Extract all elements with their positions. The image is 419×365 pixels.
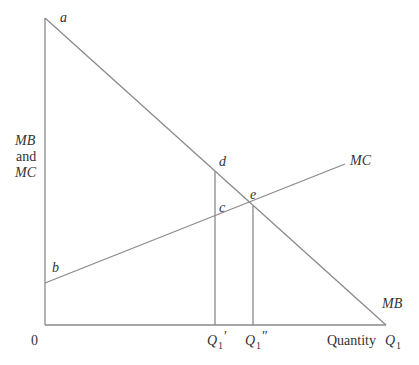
x-axis-label: Quantity Q 1 <box>327 333 401 351</box>
origin-label: 0 <box>31 333 38 348</box>
mb-curve-label: MB <box>381 296 403 311</box>
svg-text:Q: Q <box>207 333 217 348</box>
y-axis-label-and: and <box>16 149 36 164</box>
q1-prime-label: Q 1 ′ <box>207 329 227 351</box>
point-e-label: e <box>250 187 256 202</box>
svg-text:1: 1 <box>396 340 401 351</box>
svg-text:Quantity: Quantity <box>327 333 376 348</box>
svg-text:1: 1 <box>218 340 223 351</box>
svg-text:Q: Q <box>245 333 255 348</box>
q1-double-prime-label: Q 1 ″ <box>245 329 268 351</box>
mc-curve-label: MC <box>349 153 372 168</box>
svg-text:′: ′ <box>224 329 227 344</box>
point-b-label: b <box>52 260 59 275</box>
mc-curve <box>45 164 345 283</box>
y-axis-label-mb: MB <box>14 133 36 148</box>
point-a-label: a <box>60 10 67 25</box>
svg-text:Q: Q <box>385 333 395 348</box>
mb-mc-diagram: a b d c e MC MB MB and MC 0 Q 1 ′ Q 1 ″ … <box>0 0 419 365</box>
point-c-label: c <box>219 200 226 215</box>
svg-text:1: 1 <box>256 340 261 351</box>
y-axis-label-mc: MC <box>14 165 37 180</box>
svg-text:″: ″ <box>262 329 268 344</box>
point-d-label: d <box>219 154 227 169</box>
